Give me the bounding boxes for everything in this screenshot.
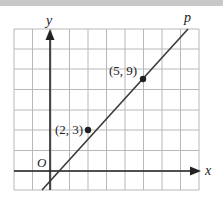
point-2-3 [85,127,91,133]
y-axis-arrow-icon [46,29,55,40]
coordinate-plane: y x O p (2, 3) (5, 9) [0,0,223,200]
line-p-label: p [183,10,191,25]
x-axis-label: x [204,163,212,178]
point-label-5-9: (5, 9) [109,63,137,78]
y-axis-label: y [44,13,53,28]
point-5-9 [140,76,146,82]
origin-label: O [37,155,47,170]
point-label-2-3: (2, 3) [55,122,83,137]
